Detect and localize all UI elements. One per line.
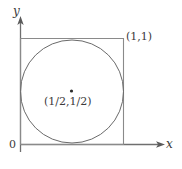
y-axis-label: y	[13, 5, 20, 17]
geometry-figure: y x 0 (1,1) (1/2,1/2)	[0, 0, 182, 169]
center-point-dot	[70, 89, 73, 92]
corner-point-label: (1,1)	[126, 31, 152, 42]
x-axis-label: x	[166, 138, 173, 150]
figure-canvas	[0, 0, 182, 169]
center-point-label: (1/2,1/2)	[44, 96, 92, 107]
origin-label: 0	[9, 139, 16, 150]
